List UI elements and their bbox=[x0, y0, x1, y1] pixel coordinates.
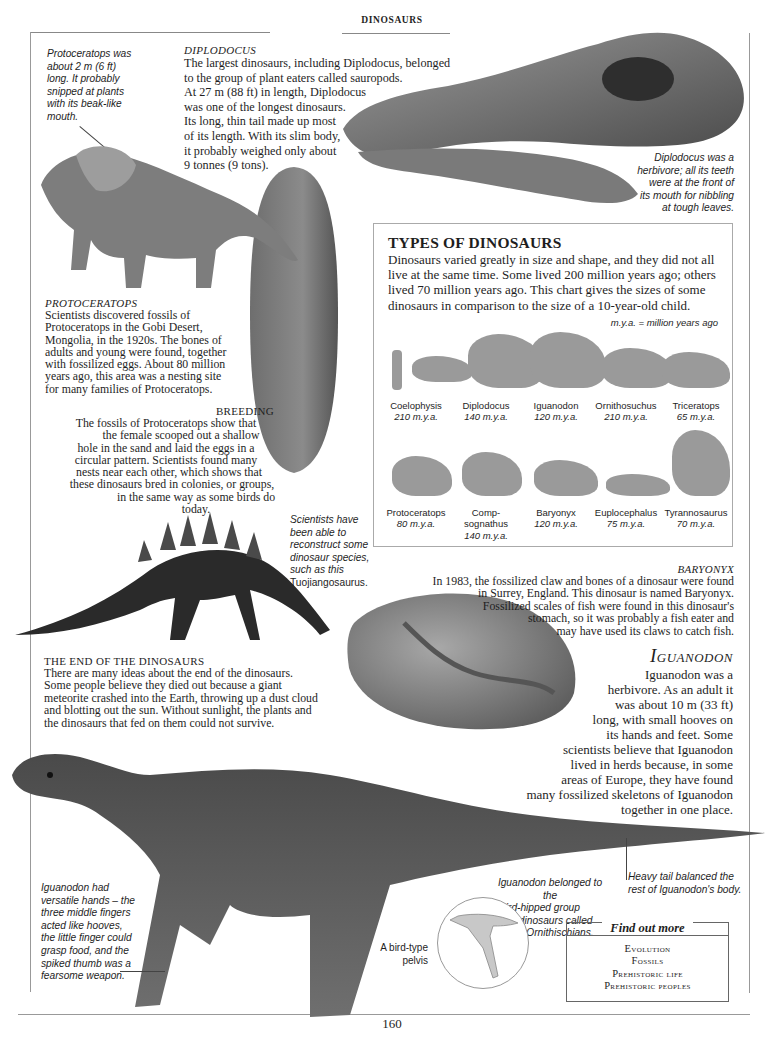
dinosaur-age: 120 m.y.a. bbox=[522, 518, 590, 529]
dinosaur-row-2: Protoceratops80 m.y.a. Comp- sognathus14… bbox=[382, 507, 730, 541]
caption-line: Heavy tail balanced the bbox=[628, 871, 748, 884]
text-line: its hands and feet. Some bbox=[480, 727, 733, 742]
text-line: Protoceratops in the Gobi Desert, bbox=[45, 321, 265, 333]
skeleton-caption: Scientists have been able to reconstruct… bbox=[290, 514, 390, 590]
text-line: these dinosaurs bred in colonies, or gro… bbox=[52, 478, 292, 490]
text-line: the dinosaurs that fed on them could not… bbox=[44, 717, 344, 729]
caption-line: the little finger could bbox=[41, 932, 166, 945]
caption-line: its mouth for nibbling bbox=[600, 190, 734, 203]
dinosaur-entry: Euplocephalus75 m.y.a. bbox=[592, 507, 660, 541]
caption-line: herbivore; all its teeth bbox=[600, 165, 734, 178]
caption-line: Scientists have bbox=[290, 514, 390, 527]
protoceratops-caption: Protoceratops was about 2 m (6 ft) long.… bbox=[47, 48, 157, 124]
text-line: years ago, this area was a nesting site bbox=[45, 370, 265, 382]
leader-line bbox=[626, 838, 627, 880]
caption-line: about 2 m (6 ft) bbox=[47, 61, 157, 74]
section-heading: Iguanodon bbox=[480, 645, 733, 667]
pelvis-caption: A bird-type pelvis bbox=[370, 942, 428, 967]
baryonyx-section: BARYONYX In 1983, the fossilized claw an… bbox=[440, 563, 734, 637]
find-out-more-list: Evolution Fossils Prehistoric life Prehi… bbox=[567, 943, 728, 993]
caption-line: long. It probably bbox=[47, 73, 157, 86]
chart-legend: m.y.a. = million years ago bbox=[611, 317, 718, 328]
end-of-dinosaurs-section: THE END OF THE DINOSAURS There are many … bbox=[44, 655, 344, 729]
caption-line: with its beak-like bbox=[47, 98, 157, 111]
dinosaur-name: Diplodocus bbox=[452, 400, 520, 411]
caption-line: pelvis bbox=[370, 955, 428, 968]
dinosaur-row-1: Coelophysis210 m.y.a. Diplodocus140 m.y.… bbox=[382, 400, 730, 423]
text-line: herbivore. As an adult it bbox=[480, 682, 733, 697]
breeding-section: BREEDING The fossils of Protoceratops sh… bbox=[56, 405, 276, 515]
dinosaur-entry: Ornithosuchus210 m.y.a. bbox=[592, 400, 660, 423]
page-number: 160 bbox=[0, 1016, 784, 1032]
skeleton-illustration bbox=[10, 510, 335, 645]
chart-title: TYPES OF DINOSAURS bbox=[388, 234, 562, 252]
dinosaur-age: 140 m.y.a. bbox=[452, 530, 520, 541]
coelophysis-silhouette-icon bbox=[412, 356, 472, 382]
cross-reference-link[interactable]: Fossils bbox=[567, 955, 728, 967]
cross-reference-link[interactable]: Prehistoric life bbox=[567, 968, 728, 980]
text-line: the female scooped out a shallow bbox=[56, 429, 276, 441]
text-line: in Surrey, England. This dinosaur is nam… bbox=[440, 587, 734, 599]
dinosaur-age: 210 m.y.a. bbox=[592, 411, 660, 422]
cross-reference-link[interactable]: Prehistoric peoples bbox=[567, 980, 728, 992]
text-line: Some people believe they died out becaus… bbox=[44, 679, 344, 691]
types-of-dinosaurs-chart: TYPES OF DINOSAURS Dinosaurs varied grea… bbox=[373, 223, 733, 547]
caption-line: rest of Iguanodon's body. bbox=[628, 884, 748, 897]
dinosaur-age: 65 m.y.a. bbox=[662, 411, 730, 422]
text-line: stomach, so it was probably a fish eater… bbox=[440, 612, 734, 624]
find-out-more-title: Find out more bbox=[567, 921, 728, 936]
dinosaur-name: Ornithosuchus bbox=[592, 400, 660, 411]
bird-pelvis-diagram bbox=[437, 897, 529, 989]
caption-line: reconstruct some bbox=[290, 539, 390, 552]
dinosaur-entry: Tyrannosaurus70 m.y.a. bbox=[662, 507, 730, 541]
leader-line bbox=[120, 971, 165, 972]
dinosaur-entry: Comp- sognathus140 m.y.a. bbox=[452, 507, 520, 541]
caption-line: been able to bbox=[290, 527, 390, 540]
iguanodon-silhouette-icon bbox=[530, 332, 606, 388]
text-line: was about 10 m (33 ft) bbox=[480, 697, 733, 712]
dinosaur-entry: Baryonyx120 m.y.a. bbox=[522, 507, 590, 541]
caption-line: Iguanodon had bbox=[41, 882, 166, 895]
dinosaur-name: Baryonyx bbox=[522, 507, 590, 518]
dinosaur-age: 140 m.y.a. bbox=[452, 411, 520, 422]
dinosaur-age: 75 m.y.a. bbox=[592, 518, 660, 529]
find-out-more-heading: Find out more bbox=[602, 921, 692, 935]
dinosaur-name: Comp- sognathus bbox=[452, 507, 520, 530]
caption-line: mouth. bbox=[47, 111, 157, 124]
protoceratops-image bbox=[36, 140, 306, 292]
dinosaur-name: Iguanodon bbox=[522, 400, 590, 411]
euplocephalus-silhouette-icon bbox=[606, 474, 670, 496]
caption-line: at tough leaves. bbox=[600, 202, 734, 215]
dinosaur-name: Triceratops bbox=[662, 400, 730, 411]
frame-top-left bbox=[30, 32, 270, 33]
tyrannosaurus-silhouette-icon bbox=[672, 430, 730, 496]
protoceratops-section: PROTOCERATOPS Scientists discovered foss… bbox=[45, 297, 265, 395]
caption-line: versatile hands – the bbox=[41, 895, 166, 908]
dinosaur-age: 80 m.y.a. bbox=[382, 518, 450, 529]
dinosaur-entry: Diplodocus140 m.y.a. bbox=[452, 400, 520, 423]
text-line: for many families of Protoceratops. bbox=[45, 383, 265, 395]
caption-line: were at the front of bbox=[600, 177, 734, 190]
text-line: may have used its claws to catch fish. bbox=[440, 625, 734, 637]
caption-line: dinosaur species, bbox=[290, 552, 390, 565]
caption-line: such as this bbox=[290, 564, 390, 577]
text-line: and blotting out the sun. Without sunlig… bbox=[44, 704, 344, 716]
find-out-more-box: Find out more Evolution Fossils Prehisto… bbox=[566, 922, 729, 1002]
caption-line: A bird-type bbox=[370, 942, 428, 955]
tail-caption: Heavy tail balanced the rest of Iguanodo… bbox=[628, 871, 748, 896]
cross-reference-link[interactable]: Evolution bbox=[567, 943, 728, 955]
text-line: Iguanodon was a bbox=[480, 667, 733, 682]
triceratops-silhouette-icon bbox=[662, 352, 730, 388]
dinosaur-entry: Protoceratops80 m.y.a. bbox=[382, 507, 450, 541]
chart-description: Dinosaurs varied greatly in size and sha… bbox=[388, 252, 728, 313]
diplodocus-caption: Diplodocus was a herbivore; all its teet… bbox=[600, 152, 734, 215]
dinosaur-age: 70 m.y.a. bbox=[662, 518, 730, 529]
caption-line: snipped at plants bbox=[47, 86, 157, 99]
dinosaur-name: Tyrannosaurus bbox=[662, 507, 730, 518]
caption-line: grasp food, and the bbox=[41, 945, 166, 958]
caption-line: fearsome weapon. bbox=[41, 970, 166, 983]
caption-line: three middle fingers bbox=[41, 907, 166, 920]
protoceratops-silhouette-icon bbox=[392, 456, 452, 496]
caption-line: Diplodocus was a bbox=[600, 152, 734, 165]
tuojiangosaurus-skeleton-image bbox=[10, 510, 335, 645]
